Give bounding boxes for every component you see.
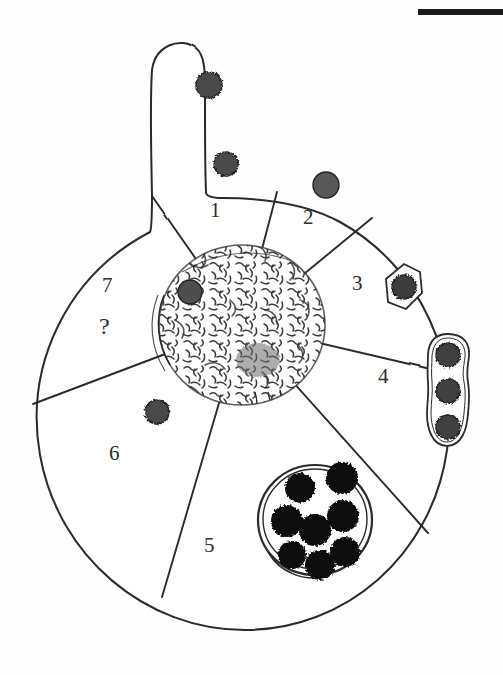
sector-label-6: 6 (109, 443, 120, 464)
phagocytosis-diagram (0, 0, 503, 675)
particle-chain-middle (436, 379, 460, 403)
figure-root: 1234567 ? (0, 0, 503, 675)
sector-label-5: 5 (204, 535, 215, 556)
particle-in-phagosome (392, 275, 416, 299)
sector-label-4: 4 (378, 366, 389, 387)
phagosome-particle-5 (299, 514, 331, 546)
phagosome-particle-3 (271, 505, 303, 537)
phagosome-particle-8 (305, 550, 335, 580)
particle-attached-pseudopod (214, 152, 238, 176)
particle-free-upper (196, 72, 222, 98)
particle-chain-bottom (436, 415, 460, 439)
unknown-stage-marker: ? (99, 314, 110, 338)
particle-chain-top (436, 343, 460, 367)
phagosome-particle-4 (327, 500, 359, 532)
nucleolus (236, 343, 280, 377)
scale-bar (418, 9, 503, 15)
large-phagosome (258, 462, 372, 580)
sector-label-2: 2 (303, 207, 314, 228)
phagosome-particle-6 (278, 541, 306, 569)
particle-in-nucleus-region (178, 280, 202, 304)
phagosome-particle-1 (285, 473, 315, 503)
sector-label-3: 3 (352, 273, 363, 294)
particle-attached-membrane (313, 172, 339, 198)
phagosome-particle-2 (326, 462, 358, 494)
sector-label-1: 1 (210, 200, 221, 221)
sector-label-7: 7 (102, 275, 113, 296)
particle-cytoplasm-sector6 (145, 400, 169, 424)
